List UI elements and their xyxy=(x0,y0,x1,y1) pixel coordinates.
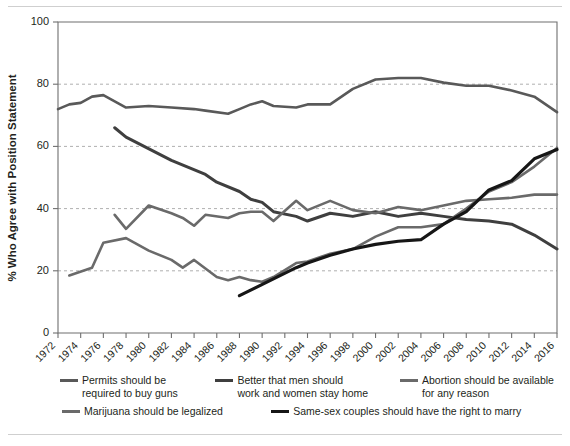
legend-item-same-sex-marriage[interactable]: Same-sex couples should have the right t… xyxy=(271,405,570,418)
svg-text:40: 40 xyxy=(37,202,49,214)
svg-text:2016: 2016 xyxy=(531,339,556,364)
svg-text:1996: 1996 xyxy=(305,339,330,364)
svg-text:2010: 2010 xyxy=(463,339,488,364)
svg-text:2014: 2014 xyxy=(509,339,534,364)
legend-swatch-permits xyxy=(60,379,78,382)
legend-swatch-same-sex-marriage xyxy=(271,410,289,413)
legend-label-same-sex-marriage: Same-sex couples should have the right t… xyxy=(293,405,521,418)
svg-text:80: 80 xyxy=(37,77,49,89)
series-line-0 xyxy=(58,78,557,114)
legend-label-abortion: Abortion should be available for any rea… xyxy=(422,374,554,399)
svg-text:1978: 1978 xyxy=(100,339,125,364)
svg-text:1990: 1990 xyxy=(237,339,262,364)
legend-label-permits: Permits should be required to buy guns xyxy=(82,374,178,399)
svg-text:2000: 2000 xyxy=(350,339,375,364)
series-line-2 xyxy=(115,195,557,229)
svg-text:1988: 1988 xyxy=(214,339,239,364)
svg-text:2012: 2012 xyxy=(486,339,511,364)
legend-label-marijuana: Marijuana should be legalized xyxy=(84,405,223,418)
svg-text:1992: 1992 xyxy=(259,339,284,364)
x-axis-ticks: 1972197419761978198019821984198619881990… xyxy=(32,333,557,364)
legend-item-abortion[interactable]: Abortion should be available for any rea… xyxy=(400,374,570,399)
y-axis-title: % Who Agree with Position Statement xyxy=(6,74,18,281)
svg-text:1980: 1980 xyxy=(123,339,148,364)
svg-text:2004: 2004 xyxy=(395,339,420,364)
y-axis-ticks: 020406080100 xyxy=(31,15,58,338)
legend-item-marijuana[interactable]: Marijuana should be legalized xyxy=(62,405,271,418)
svg-text:1984: 1984 xyxy=(169,339,194,364)
plot-frame xyxy=(58,22,557,333)
figure-container: 020406080100 197219741976197819801982198… xyxy=(0,0,570,446)
legend-item-gender-roles[interactable]: Better that men should work and women st… xyxy=(215,374,400,399)
svg-text:2006: 2006 xyxy=(418,339,443,364)
line-chart: 020406080100 197219741976197819801982198… xyxy=(0,0,570,374)
svg-text:1982: 1982 xyxy=(146,339,171,364)
svg-text:1998: 1998 xyxy=(327,339,352,364)
svg-text:1974: 1974 xyxy=(55,339,80,364)
data-series xyxy=(58,78,557,296)
svg-text:1972: 1972 xyxy=(32,339,57,364)
svg-text:1986: 1986 xyxy=(191,339,216,364)
svg-text:2008: 2008 xyxy=(441,339,466,364)
legend-label-gender-roles: Better that men should work and women st… xyxy=(237,374,368,399)
legend-swatch-marijuana xyxy=(62,410,80,413)
svg-text:60: 60 xyxy=(37,139,49,151)
chart-legend: Permits should be required to buy guns B… xyxy=(0,374,570,432)
svg-text:100: 100 xyxy=(31,15,49,27)
svg-text:0: 0 xyxy=(43,326,49,338)
legend-swatch-abortion xyxy=(400,379,418,382)
svg-text:1976: 1976 xyxy=(78,339,103,364)
svg-text:20: 20 xyxy=(37,264,49,276)
svg-text:1994: 1994 xyxy=(282,339,307,364)
legend-swatch-gender-roles xyxy=(215,379,233,382)
legend-row-2: Marijuana should be legalized Same-sex c… xyxy=(0,405,570,418)
legend-row-1: Permits should be required to buy guns B… xyxy=(0,374,570,399)
bottom-divider xyxy=(8,434,562,435)
svg-text:2002: 2002 xyxy=(373,339,398,364)
legend-item-permits[interactable]: Permits should be required to buy guns xyxy=(60,374,215,399)
